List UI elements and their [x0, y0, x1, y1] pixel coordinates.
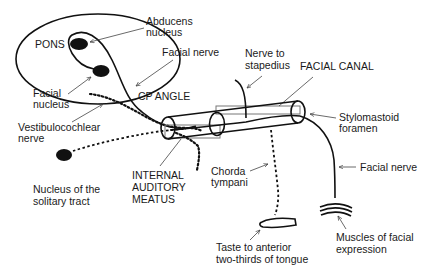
label-iam-1: INTERNAL: [132, 169, 184, 181]
label-cp-angle: CP ANGLE: [138, 90, 190, 102]
diagram-canvas: PONS Abducens nucleus Facial nerve Facia…: [0, 0, 434, 273]
chorda-tympani-path: [271, 130, 278, 215]
label-taste-2: two-thirds of tongue: [216, 253, 308, 265]
vestibulocochlear-in-tube: [176, 133, 199, 170]
label-muscles-1: Muscles of facial: [336, 231, 414, 243]
label-chorda-2: tympani: [211, 176, 248, 188]
facial-nucleus: [93, 65, 110, 77]
label-stapedius-2: stapedius: [245, 59, 290, 71]
label-iam-2: AUDITORY: [132, 181, 186, 193]
label-solitary-1: Nucleus of the: [33, 183, 100, 195]
solitary-nucleus: [56, 149, 72, 161]
label-facial-nerve-right: Facial nerve: [360, 161, 417, 173]
label-abducens-2: nucleus: [146, 26, 182, 38]
label-iam-3: MEATUS: [132, 193, 175, 205]
nerve-tube: [161, 101, 305, 139]
taste-leader: [250, 230, 260, 240]
tongue-shape: [260, 218, 296, 227]
facial-nerve-exit-path: [300, 116, 335, 198]
label-taste-1: Taste to anterior: [216, 241, 292, 253]
abducens-leader: [90, 28, 144, 42]
label-vestibulocochlear-2: nerve: [18, 132, 44, 144]
vestibulocochlear-leader: [72, 104, 103, 122]
label-solitary-2: solitary tract: [33, 195, 90, 207]
label-muscles-2: expression: [336, 243, 387, 255]
facial-nerve-diagram: PONS Abducens nucleus Facial nerve Facia…: [0, 0, 434, 273]
nerve-to-stapedius-path: [235, 80, 246, 118]
chorda-leader: [250, 164, 268, 171]
label-facial-canal: FACIAL CANAL: [300, 60, 374, 72]
facial-nucleus-leader: [68, 77, 91, 94]
stylomastoid-leader: [310, 114, 336, 118]
facial-muscles-icon: [320, 204, 352, 216]
abducens-nucleus: [70, 38, 88, 50]
tube-end-stylomastoid: [291, 101, 305, 123]
label-stapedius-1: Nerve to: [245, 47, 285, 59]
stapedius-leader: [247, 76, 262, 88]
label-stylomastoid-2: foramen: [339, 122, 378, 134]
iam-leader: [160, 139, 181, 166]
muscles-leader: [338, 216, 346, 229]
label-pons: PONS: [35, 38, 65, 50]
label-facial-nerve-top: Facial nerve: [162, 46, 219, 58]
label-facial-nucleus-2: nucleus: [33, 98, 69, 110]
